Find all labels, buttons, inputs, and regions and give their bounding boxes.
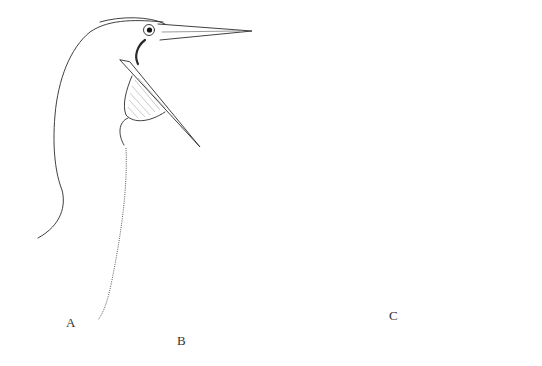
panel-label-b: B bbox=[177, 334, 186, 347]
panel-a-drawing bbox=[38, 18, 252, 320]
panel-label-a: A bbox=[66, 316, 75, 329]
panel-label-c: C bbox=[389, 309, 398, 322]
bird-heads-illustration bbox=[0, 0, 542, 366]
